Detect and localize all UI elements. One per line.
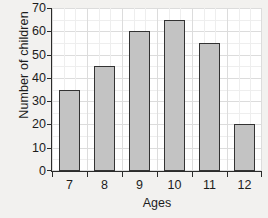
x-axis-tick-mark <box>87 172 88 177</box>
x-axis-tick-label: 9 <box>125 178 155 192</box>
bar <box>59 90 81 172</box>
x-axis-tick-mark <box>192 172 193 177</box>
x-axis-tick-labels: 789101112 <box>52 178 262 194</box>
y-axis-tick-labels: 010203040506070 <box>22 8 46 172</box>
gridline-vertical-major <box>192 8 193 171</box>
gridline-vertical-major <box>52 8 53 171</box>
x-axis-tick-marks <box>52 172 262 177</box>
y-axis-tick-label: 30 <box>22 94 46 108</box>
x-axis-tick-mark <box>227 172 228 177</box>
y-axis-tick-label: 60 <box>22 24 46 38</box>
x-axis-tick-label: 11 <box>195 178 225 192</box>
x-axis-title: Ages <box>52 196 262 210</box>
y-axis-tick-label: 40 <box>22 71 46 85</box>
gridline-vertical-major <box>227 8 228 171</box>
bar <box>94 66 116 171</box>
x-axis-tick-mark <box>122 172 123 177</box>
y-axis-tick-label: 0 <box>22 164 46 178</box>
x-axis-tick-label: 10 <box>160 178 190 192</box>
bar <box>164 20 186 171</box>
x-axis-tick-mark <box>157 172 158 177</box>
x-axis-tick-label: 7 <box>55 178 85 192</box>
y-axis-tick-label: 70 <box>22 1 46 15</box>
plot-area <box>52 8 262 171</box>
gridline-vertical-major <box>87 8 88 171</box>
bar <box>129 31 151 171</box>
gridline-vertical-major <box>122 8 123 171</box>
x-axis-tick-mark <box>261 172 262 177</box>
y-axis-tick-label: 20 <box>22 117 46 131</box>
bar-chart: Number of children 010203040506070 78910… <box>0 0 268 218</box>
bar <box>234 124 256 171</box>
x-axis-tick-label: 8 <box>90 178 120 192</box>
x-axis-tick-label: 12 <box>230 178 260 192</box>
y-axis-tick-label: 10 <box>22 141 46 155</box>
gridline-vertical-major <box>157 8 158 171</box>
gridline-vertical-major <box>261 8 262 171</box>
y-axis-tick-label: 50 <box>22 48 46 62</box>
x-axis-tick-mark <box>52 172 53 177</box>
bar <box>199 43 221 171</box>
